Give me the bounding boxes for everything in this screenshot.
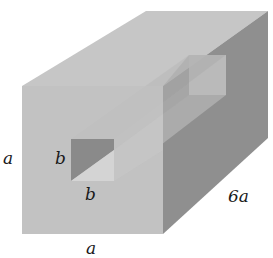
label-hole-height-b: b	[55, 150, 66, 167]
label-hole-width-b: b	[85, 186, 96, 203]
label-height-a: a	[3, 150, 13, 167]
label-length-6a: 6a	[228, 188, 249, 205]
label-width-a: a	[86, 240, 96, 257]
